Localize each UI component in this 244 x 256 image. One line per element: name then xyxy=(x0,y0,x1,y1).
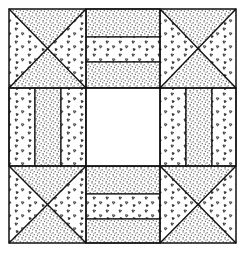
quilt-block xyxy=(0,0,244,256)
rail-block-right xyxy=(160,88,236,166)
corner-block-bottom-left xyxy=(9,166,86,243)
corner-block-bottom-right xyxy=(160,166,236,243)
rail-block-top xyxy=(86,9,160,88)
corner-block-top-right xyxy=(160,9,236,88)
corner-block-top-left xyxy=(9,9,86,88)
center-square xyxy=(86,88,160,166)
rail-block-bottom xyxy=(86,166,160,243)
rail-block-left xyxy=(9,88,86,166)
